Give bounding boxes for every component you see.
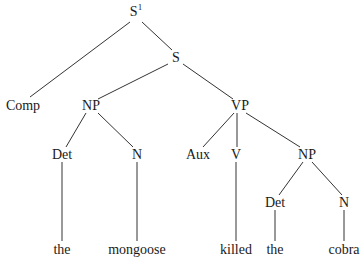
node-v: V <box>231 148 241 162</box>
node-vp: VP <box>231 99 249 113</box>
node-n-object: N <box>339 196 349 210</box>
node-np-object: NP <box>298 148 316 162</box>
word-killed: killed <box>220 243 252 257</box>
edge-vp-np2 <box>246 113 300 147</box>
node-n-subject: N <box>132 148 142 162</box>
edge-s-vp <box>183 64 233 99</box>
edge-np2-n2 <box>312 162 342 195</box>
node-superscript: 1 <box>138 2 143 12</box>
edge-s1-s <box>142 22 172 50</box>
edge-s1-comp <box>30 22 130 97</box>
node-np-subject: NP <box>82 99 100 113</box>
node-det-object: Det <box>265 196 285 210</box>
tree-edges <box>0 0 364 263</box>
edge-vp-aux <box>203 113 234 147</box>
edge-np-det <box>66 113 86 147</box>
edge-s-np <box>98 64 168 99</box>
node-comp: Comp <box>6 99 40 113</box>
word-cobra: cobra <box>328 243 359 257</box>
node-aux: Aux <box>186 148 210 162</box>
node-s: S <box>172 51 180 65</box>
node-s-bar: S1 <box>130 5 142 19</box>
word-the-1: the <box>53 243 70 257</box>
edge-np2-det2 <box>279 162 303 195</box>
word-mongoose: mongoose <box>108 243 166 257</box>
edge-np-n <box>98 113 133 147</box>
word-the-2: the <box>266 243 283 257</box>
node-label: S <box>130 4 138 19</box>
node-det-subject: Det <box>52 148 72 162</box>
